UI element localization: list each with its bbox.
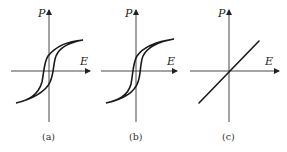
p-axis-label: P [37, 7, 46, 20]
e-axis-label: E [264, 55, 273, 68]
hysteresis-loop-wide [16, 40, 83, 103]
e-axis-label: E [79, 55, 88, 68]
p-axis-label: P [124, 7, 133, 20]
caption-b: (b) [129, 131, 143, 142]
panel-c: P E (c) [190, 7, 279, 142]
polarization-figure: P E (a) P E (b) P E (c) [0, 0, 287, 152]
e-axis-label: E [166, 55, 175, 68]
caption-c: (c) [222, 131, 235, 142]
p-axis-label: P [217, 7, 226, 20]
panel-a: P E (a) [11, 7, 90, 142]
caption-a: (a) [42, 131, 55, 142]
panel-b: P E (b) [101, 7, 177, 142]
